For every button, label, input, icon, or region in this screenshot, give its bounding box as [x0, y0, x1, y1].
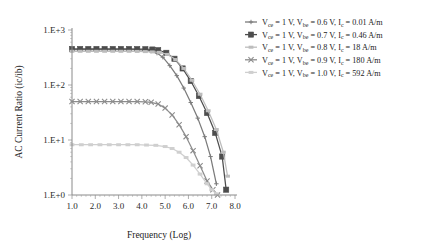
ac-current-ratio-chart: 1.E+01.E+11.E+21.E+31.02.03.04.05.06.07.… — [0, 0, 447, 248]
legend-label-2: Vce = 1 V, Vbe = 0.8 V, Ic = 18 A/m — [262, 43, 377, 53]
series-3 — [69, 99, 220, 198]
y-tick-label-2: 1.E+2 — [43, 80, 65, 90]
x-tick-label-3: 4.0 — [136, 201, 148, 211]
data-marker — [198, 93, 203, 96]
data-marker — [173, 58, 178, 61]
data-marker — [94, 50, 99, 53]
data-marker — [198, 173, 203, 176]
legend-entry-3[interactable]: Vce = 1 V, Vbe = 0.9 V, Ic = 180 A/m — [245, 56, 381, 66]
data-marker — [224, 187, 229, 192]
chart-legend: Vce = 1 V, Vbe = 0.6 V, Ic = 0.01 A/mVce… — [245, 18, 383, 78]
data-marker — [150, 50, 155, 53]
legend-label-1: Vce = 1 V, Vbe = 0.7 V, Ic = 0.46 A/m — [262, 31, 383, 41]
data-marker — [144, 144, 149, 147]
data-marker — [163, 145, 168, 148]
x-tick-label-6: 7.0 — [206, 201, 218, 211]
series-0 — [70, 47, 219, 186]
x-tick-label-2: 3.0 — [113, 201, 125, 211]
data-marker — [197, 163, 202, 168]
data-marker — [225, 175, 230, 178]
y-tick-label-1: 1.E+1 — [43, 135, 65, 145]
data-marker — [125, 143, 130, 146]
x-axis-title: Frequency (Log) — [127, 230, 191, 241]
data-marker — [170, 112, 175, 117]
data-marker — [177, 151, 182, 154]
data-marker — [127, 50, 132, 53]
legend-label-3: Vce = 1 V, Vbe = 0.9 V, Ic = 180 A/m — [262, 56, 381, 66]
x-tick-label-0: 1.0 — [66, 201, 78, 211]
series-1 — [69, 46, 228, 192]
data-marker — [189, 100, 193, 104]
data-marker — [78, 50, 83, 53]
data-marker — [206, 109, 211, 112]
data-marker — [119, 50, 124, 53]
data-marker — [221, 151, 226, 154]
data-marker — [209, 188, 214, 191]
data-marker — [107, 143, 112, 146]
data-marker — [214, 182, 218, 186]
series-line-1 — [72, 49, 226, 190]
data-marker — [181, 67, 186, 70]
data-marker — [190, 148, 195, 153]
data-marker — [110, 50, 115, 53]
x-tick-label-7: 8.0 — [229, 201, 241, 211]
series-4 — [70, 143, 219, 195]
data-marker — [190, 79, 195, 82]
legend-entry-1[interactable]: Vce = 1 V, Vbe = 0.7 V, Ic = 0.46 A/m — [245, 31, 383, 41]
legend-label-4: Vce = 1 V, Vbe = 1.0 V, Ic = 592 A/m — [262, 69, 381, 79]
legend-label-0: Vce = 1 V, Vbe = 0.6 V, Ic = 0.01 A/m — [262, 18, 383, 28]
y-tick-label-0: 1.E+0 — [43, 190, 65, 200]
data-marker — [249, 71, 254, 74]
data-marker — [249, 46, 254, 49]
data-marker — [116, 143, 121, 146]
data-marker — [184, 134, 189, 139]
data-marker — [170, 147, 175, 150]
legend-entry-2[interactable]: Vce = 1 V, Vbe = 0.8 V, Ic = 18 A/m — [245, 43, 377, 53]
data-marker — [143, 50, 148, 53]
data-marker — [165, 53, 170, 56]
data-marker — [214, 128, 219, 131]
data-marker — [208, 154, 212, 158]
data-marker — [153, 144, 158, 147]
x-tick-label-5: 6.0 — [183, 201, 195, 211]
data-marker — [86, 50, 91, 53]
data-marker — [157, 51, 162, 54]
data-marker — [163, 106, 168, 111]
data-marker — [205, 182, 210, 185]
legend-entry-0[interactable]: Vce = 1 V, Vbe = 0.6 V, Ic = 0.01 A/m — [245, 18, 383, 28]
x-tick-label-1: 2.0 — [90, 201, 102, 211]
legend-entry-4[interactable]: Vce = 1 V, Vbe = 1.0 V, Ic = 592 A/m — [245, 69, 381, 79]
data-marker — [184, 156, 189, 159]
x-tick-label-4: 5.0 — [160, 201, 172, 211]
data-marker — [203, 134, 207, 138]
data-marker — [135, 143, 140, 146]
data-marker — [135, 50, 140, 53]
data-marker — [79, 143, 84, 146]
y-axis-title: AC Current Ratio (ic/ib) — [14, 65, 25, 158]
data-marker — [88, 143, 93, 146]
data-marker — [191, 164, 196, 167]
y-tick-label-3: 1.E+3 — [43, 25, 65, 35]
series-layer — [69, 46, 230, 197]
data-marker — [102, 50, 107, 53]
data-marker — [248, 32, 253, 37]
data-marker — [98, 143, 103, 146]
data-marker — [196, 116, 200, 120]
chart-figure: 1.E+01.E+11.E+21.E+31.02.03.04.05.06.07.… — [0, 0, 447, 248]
data-marker — [249, 20, 253, 24]
data-marker — [177, 122, 182, 127]
